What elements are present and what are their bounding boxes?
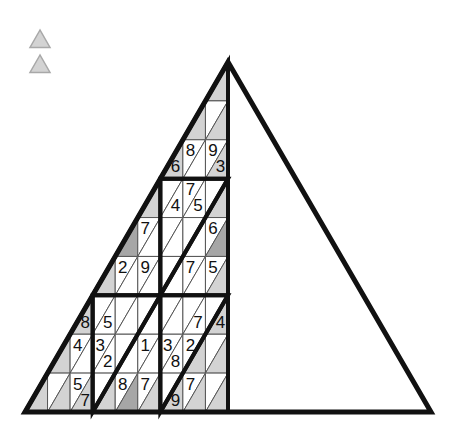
cell-number: 7 <box>141 219 150 238</box>
cell-number: 7 <box>193 313 202 332</box>
cell-number: 7 <box>186 258 195 277</box>
cell-number: 6 <box>171 157 180 176</box>
cell-number: 7 <box>186 375 195 394</box>
cell-number: 3 <box>216 157 225 176</box>
cell-number: 6 <box>208 219 217 238</box>
puzzle-svg: 689347576297585744321382578797 <box>0 0 451 438</box>
cell-number: 7 <box>141 375 150 394</box>
cell-number: 2 <box>103 352 112 371</box>
cell-number: 8 <box>118 375 127 394</box>
cell-number: 8 <box>186 141 195 160</box>
cell-number: 7 <box>80 391 89 410</box>
triangular-sudoku-puzzle[interactable]: 689347576297585744321382578797 <box>0 0 451 438</box>
cell-number: 5 <box>193 196 202 215</box>
cell-number: 2 <box>118 258 127 277</box>
legend-triangles <box>30 30 50 72</box>
cell-number: 4 <box>171 196 180 215</box>
cell-number: 1 <box>141 336 150 355</box>
cell-number: 4 <box>73 336 82 355</box>
legend-triangle-1 <box>30 30 50 47</box>
cell-number: 9 <box>141 258 150 277</box>
legend-triangle-2 <box>30 55 50 72</box>
cell-number: 2 <box>186 336 195 355</box>
cell-number: 8 <box>171 352 180 371</box>
cell-number: 5 <box>103 313 112 332</box>
cell-number: 9 <box>171 391 180 410</box>
cell-number: 4 <box>216 313 225 332</box>
cell-number: 8 <box>80 313 89 332</box>
cell-number: 5 <box>208 258 217 277</box>
